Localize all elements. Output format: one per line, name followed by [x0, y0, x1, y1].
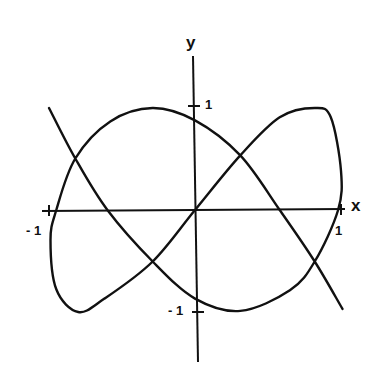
x-axis-label: x	[351, 196, 360, 216]
chart-plot	[0, 0, 379, 368]
y-tick-label-neg: - 1	[168, 303, 183, 318]
x-tick-label-pos: 1	[335, 223, 342, 238]
x-tick-label-neg: - 1	[26, 223, 41, 238]
y-axis-label: y	[186, 33, 195, 53]
y-tick-label-pos: 1	[205, 97, 212, 112]
